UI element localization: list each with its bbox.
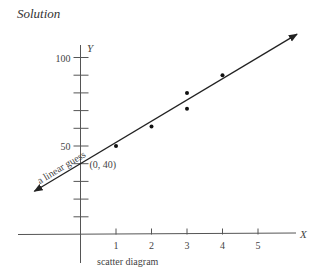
scatter-chart: XY1234550100a linear guess(0, 40)scatter… bbox=[0, 0, 321, 279]
x-tick-label: 3 bbox=[185, 240, 190, 251]
x-axis-label: X bbox=[299, 228, 308, 240]
chart-caption: scatter diagram bbox=[97, 256, 159, 267]
data-point bbox=[221, 73, 225, 77]
y-tick-label: 100 bbox=[56, 53, 71, 64]
x-tick-label: 5 bbox=[256, 240, 261, 251]
x-tick-label: 1 bbox=[114, 240, 119, 251]
data-point bbox=[185, 107, 189, 111]
y-axis-label: Y bbox=[87, 42, 95, 54]
data-point bbox=[185, 91, 189, 95]
x-tick-label: 2 bbox=[149, 240, 154, 251]
intercept-annotation: (0, 40) bbox=[90, 159, 117, 171]
linear-guess-label: a linear guess bbox=[35, 148, 87, 185]
x-tick-label: 4 bbox=[220, 240, 225, 251]
data-point bbox=[150, 125, 154, 129]
y-tick-label: 50 bbox=[61, 141, 71, 152]
x-axis bbox=[18, 233, 296, 235]
data-point bbox=[114, 144, 118, 148]
